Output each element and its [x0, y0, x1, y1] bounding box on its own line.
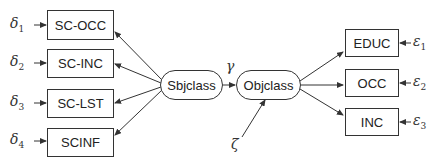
- loading-sc-inc: [115, 64, 161, 83]
- indicator-sc-inc: SC-INC: [47, 49, 114, 78]
- epsilon2-label: ε2: [413, 73, 426, 92]
- delta3-label: δ3: [10, 93, 24, 112]
- zeta-label: ζ: [231, 136, 239, 152]
- gamma-label: γ: [226, 58, 234, 74]
- indicator-sc-lst: SC-LST: [47, 89, 114, 118]
- epsilon1-label: ε1: [413, 33, 426, 52]
- latent-objclass: Objclass: [236, 70, 301, 100]
- indicator-occ: OCC: [345, 69, 399, 97]
- loading-educ: [300, 52, 343, 81]
- indicator-inc: INC: [345, 108, 399, 136]
- loading-sc-occ: [115, 32, 162, 80]
- latent-sbjclass: Sbjclass: [160, 70, 223, 100]
- epsilon3-label: ε3: [413, 112, 426, 131]
- loading-sc-lst: [115, 87, 161, 103]
- indicator-scinf: SCINF: [47, 128, 114, 157]
- zeta-arrow: [242, 100, 265, 137]
- loading-inc: [300, 89, 343, 115]
- delta2-label: δ2: [10, 53, 24, 72]
- loading-scinf: [115, 90, 162, 135]
- indicator-sc-occ: SC-OCC: [47, 10, 114, 40]
- delta1-label: δ1: [10, 15, 24, 34]
- delta4-label: δ4: [10, 131, 24, 150]
- indicator-educ: EDUC: [345, 29, 399, 57]
